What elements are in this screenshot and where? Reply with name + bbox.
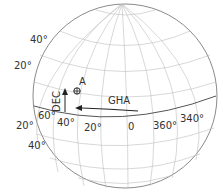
dec-label-20-south: 20° <box>16 120 34 131</box>
gha-label-0: 0 <box>128 121 134 132</box>
gha-arrow-line <box>82 108 138 111</box>
gha-label: GHA <box>108 95 130 106</box>
point-a-label: A <box>79 76 86 87</box>
gha-label-20: 20° <box>84 122 102 133</box>
gha-label-360: 360° <box>153 120 177 131</box>
point-a-marker-icon <box>74 88 80 94</box>
gha-label-340: 340° <box>180 113 204 124</box>
gha-label-40: 40° <box>57 117 75 128</box>
celestial-sphere-diagram: 40° 20° 20° 40° 60° 40° 20° 0 360° 340° … <box>0 0 219 191</box>
dec-label-40-north: 40° <box>30 34 48 45</box>
dec-arrowhead-icon <box>62 88 68 95</box>
dec-label-20-north: 20° <box>14 60 32 71</box>
dec-label: DEC <box>51 91 62 112</box>
dec-label-40-south: 40° <box>28 140 46 151</box>
